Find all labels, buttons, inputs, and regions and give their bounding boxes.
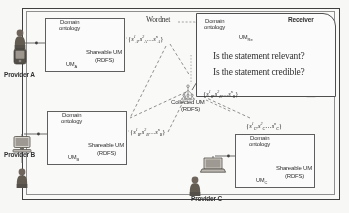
provider-c-ontology-label-line2: ontology — [249, 141, 270, 147]
collected-um-line1: Collected UM — [171, 99, 205, 105]
provider-b-store-name: UM — [68, 154, 77, 160]
provider-a-store-name: UM — [66, 61, 75, 67]
provider-b-name: Provider B — [4, 152, 35, 159]
provider-c-store-sub: C — [265, 180, 268, 185]
provider-c-shareable-line2: (RDFS) — [285, 173, 304, 179]
provider-a-name: Provider A — [4, 72, 35, 79]
receiver-ontology-label-line2: ontology — [204, 24, 225, 30]
receiver-question-credible: Is the statement credible? — [213, 68, 305, 78]
provider-a-box — [45, 18, 125, 72]
provider-b-ontology-label-line2: ontology — [61, 118, 82, 124]
collected-statement-set: {s1R,s2R…snR} — [203, 89, 238, 99]
receiver-store-label: UMRe — [239, 34, 253, 42]
diagram-canvas: Domain ontology UMA Shareable UM (RDFS) … — [0, 0, 349, 213]
wordnet-label: Wordnet — [146, 16, 170, 24]
provider-a-shareable-line2: (RDFS) — [95, 57, 114, 63]
provider-b-shareable-line2: (RDFS) — [97, 150, 116, 156]
collected-um-line2: (RDFS) — [181, 106, 200, 112]
provider-a-statement-set: {s1A,s2A…snA} — [128, 34, 163, 44]
receiver-title: Receiver — [288, 17, 314, 24]
receiver-store-sub: Re — [248, 37, 253, 42]
provider-a-store-label: UMA — [66, 61, 77, 69]
provider-c-name: Provider C — [191, 196, 222, 203]
set-c-close: } — [279, 122, 282, 129]
provider-a-shareable-line1: Shareable UM — [86, 49, 122, 55]
receiver-question-relevant: Is the statement relevant? — [213, 52, 305, 62]
provider-b-shareable-line1: Shareable UM — [88, 142, 124, 148]
provider-b-store-sub: B — [77, 157, 80, 162]
provider-a-ontology-label-line2: ontology — [59, 25, 80, 31]
provider-c-store-name: UM — [256, 177, 265, 183]
provider-b-box — [47, 111, 127, 165]
provider-c-shareable-line1: Shareable UM — [276, 165, 312, 171]
provider-b-statement-set: {s1B,s2B…snB} — [130, 127, 165, 137]
provider-c-store-label: UMC — [256, 177, 267, 185]
set-r-close: } — [235, 90, 238, 97]
provider-a-store-sub: A — [75, 64, 78, 69]
receiver-store-name: UM — [239, 34, 248, 40]
set-b-close: } — [162, 128, 165, 135]
provider-b-store-label: UMB — [68, 154, 79, 162]
set-a-close: } — [160, 35, 163, 42]
provider-c-box — [235, 134, 315, 188]
provider-c-statement-set: {s1C,s2C…snC} — [246, 121, 282, 131]
